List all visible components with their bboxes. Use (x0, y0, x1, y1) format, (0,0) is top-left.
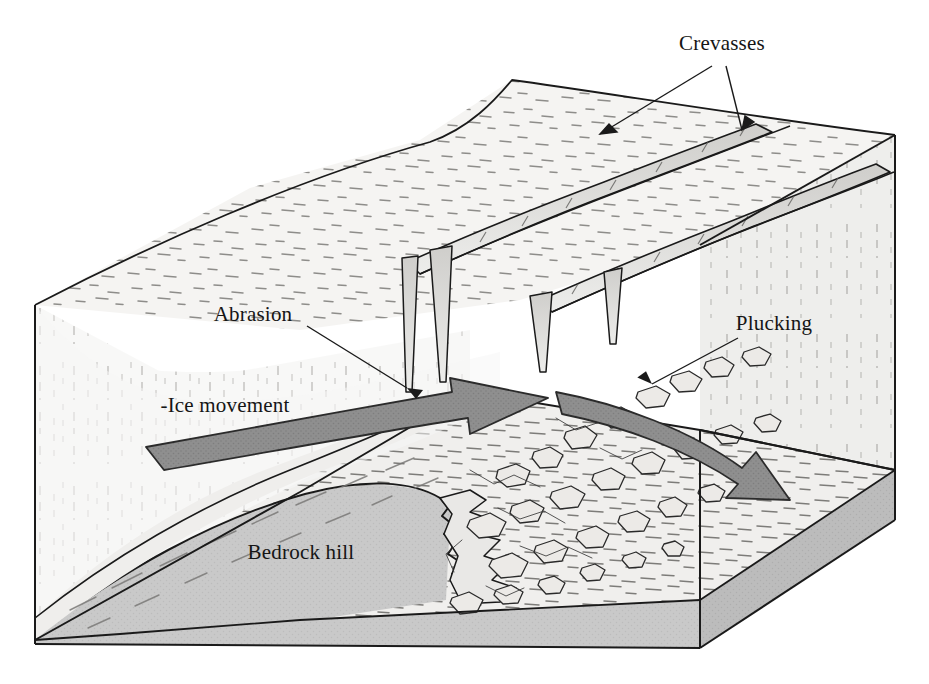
bedrock-hill-label: Bedrock hill (248, 540, 355, 564)
crevasses-label: Crevasses (679, 31, 765, 55)
crevasse-wedge-4 (604, 268, 622, 344)
figure-root: Crevasses Abrasion -Ice movement Pluckin… (0, 0, 929, 684)
glacier-block (35, 80, 895, 648)
crevasse-wedge-3 (530, 292, 552, 372)
abrasion-label: Abrasion (214, 302, 293, 326)
ice-movement-label: -Ice movement (160, 393, 289, 417)
glacial-erosion-diagram: Crevasses Abrasion -Ice movement Pluckin… (0, 0, 929, 684)
plucking-label: Plucking (736, 311, 813, 335)
